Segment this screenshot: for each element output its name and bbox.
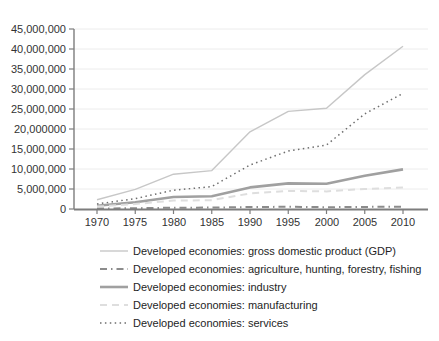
y-axis-tick-label: 0 <box>60 203 66 215</box>
legend-label-gdp: Developed economies: gross domestic prod… <box>133 245 396 257</box>
legend-label-services: Developed economies: services <box>133 317 289 329</box>
x-axis-tick-label: 1985 <box>200 216 224 228</box>
chart: 45,000,000 40,000,000 35,000,000 30,000,… <box>0 0 439 341</box>
y-axis-tick-label: 15,000,000 <box>11 143 66 155</box>
x-axis-tick-label: 2010 <box>391 216 415 228</box>
y-axis-tick-label: 25,000,000 <box>11 103 66 115</box>
y-axis-labels: 45,000,000 40,000,000 35,000,000 30,000,… <box>11 23 66 215</box>
legend-label-industry: Developed economies: industry <box>133 281 287 293</box>
legend-item-agriculture: Developed economies: agriculture, huntin… <box>100 263 421 275</box>
x-axis-tick-label: 2005 <box>353 216 377 228</box>
x-axis-tick-label: 1990 <box>238 216 262 228</box>
legend-item-gdp: Developed economies: gross domestic prod… <box>100 245 396 257</box>
series-lines <box>97 46 403 208</box>
legend: Developed economies: gross domestic prod… <box>100 245 421 329</box>
y-axis-tick-label: 35,000,000 <box>11 63 66 75</box>
legend-item-manufacturing: Developed economies: manufacturing <box>100 299 318 311</box>
axes <box>74 29 428 210</box>
x-axis-tick-label: 1995 <box>276 216 300 228</box>
legend-label-agriculture: Developed economies: agriculture, huntin… <box>133 263 421 275</box>
y-axis-tick-label: 10,000,000 <box>11 163 66 175</box>
manufacturing-line <box>97 187 403 206</box>
y-axis-tick-label: 30,000,000 <box>11 83 66 95</box>
y-axis-tick-label: 5,000,000 <box>17 183 66 195</box>
y-axis-tick-label: 20,000000 <box>14 123 66 135</box>
y-axis-tick-label: 45,000,000 <box>11 23 66 35</box>
x-axis-tick-label: 1980 <box>162 216 186 228</box>
legend-item-services: Developed economies: services <box>100 317 289 329</box>
axis-ticks <box>69 29 403 214</box>
x-axis-tick-label: 2000 <box>315 216 339 228</box>
legend-label-manufacturing: Developed economies: manufacturing <box>133 299 318 311</box>
legend-item-industry: Developed economies: industry <box>100 281 287 293</box>
chart-svg: 45,000,000 40,000,000 35,000,000 30,000,… <box>0 0 439 341</box>
agriculture-line <box>97 207 403 209</box>
y-axis-tick-label: 40,000,000 <box>11 43 66 55</box>
industry-line <box>97 169 403 205</box>
x-axis-tick-label: 1970 <box>85 216 109 228</box>
x-axis-tick-label: 1975 <box>123 216 147 228</box>
x-axis-labels: 1970 1975 1980 1985 1990 1995 2000 2005 … <box>85 216 415 228</box>
